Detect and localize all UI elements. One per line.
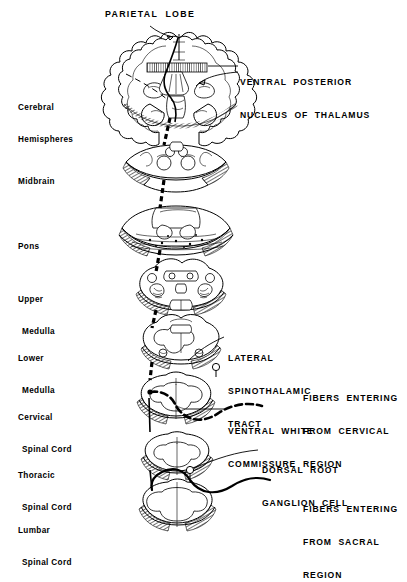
callout-line: REGION bbox=[303, 570, 398, 581]
callout-line: SPINOTHALAMIC bbox=[228, 386, 311, 397]
callout-line: FROM CERVICAL bbox=[303, 426, 398, 437]
callout-line: FROM SACRAL bbox=[303, 537, 398, 548]
region-label-line1: Lower bbox=[18, 354, 55, 365]
thoracic-cord-section bbox=[141, 432, 213, 480]
midbrain-section bbox=[123, 142, 229, 192]
region-label-midbrain: Midbrain bbox=[18, 156, 55, 198]
region-label-lumbar-spinal-cord: Lumbar Spinal Cord bbox=[18, 505, 72, 579]
region-label-line2: Hemispheres bbox=[18, 135, 73, 146]
callout-fibers-entering-sacral: FIBERS ENTERING FROM SACRAL REGION bbox=[303, 482, 398, 582]
region-label-line1: Cervical bbox=[18, 413, 72, 424]
page-title: PARIETAL LOBE bbox=[105, 9, 195, 20]
region-label-line1: Cerebral bbox=[18, 103, 73, 114]
region-label-pons: Pons bbox=[18, 221, 39, 263]
region-label-line1: Pons bbox=[18, 242, 39, 253]
region-label-line2: Spinal Cord bbox=[18, 558, 72, 569]
region-label-line1: Midbrain bbox=[18, 177, 55, 188]
callout-line: VENTRAL WHITE bbox=[228, 426, 314, 437]
cerebral-hemispheres-section bbox=[101, 32, 256, 145]
callout-line: FIBERS ENTERING bbox=[303, 393, 398, 404]
region-label-line1: Upper bbox=[18, 295, 55, 306]
callout-line: VENTRAL POSTERIOR bbox=[240, 77, 370, 88]
callout-line: NUCLEUS OF THALAMUS bbox=[240, 110, 370, 121]
callout-line: DORSAL ROOT bbox=[262, 465, 348, 476]
callout-line: LATERAL bbox=[228, 353, 311, 364]
callout-line: FIBERS ENTERING bbox=[303, 504, 398, 515]
callout-ventral-posterior-nucleus: VENTRAL POSTERIOR NUCLEUS OF THALAMUS bbox=[240, 55, 370, 132]
region-label-line1: Lumbar bbox=[18, 526, 72, 537]
pons-section bbox=[119, 206, 233, 256]
region-label-line1: Thoracic bbox=[18, 471, 72, 482]
upper-medulla-section bbox=[136, 259, 226, 315]
region-label-cerebral-hemispheres: Cerebral Hemispheres bbox=[18, 82, 73, 156]
